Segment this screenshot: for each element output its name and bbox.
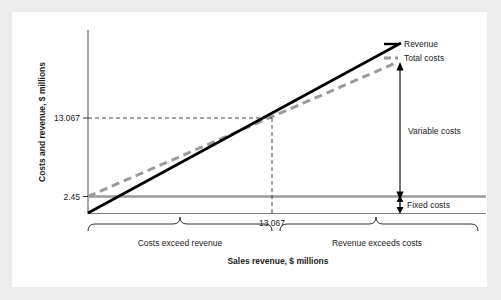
fixed-costs-arrow <box>397 195 404 214</box>
legend-total-costs-label: Total costs <box>404 53 444 63</box>
break-even-chart: 13.067 2.45 13.067 Costs and revenue, $ … <box>12 12 487 287</box>
brace-left-label: Costs exceed revenue <box>138 238 223 248</box>
y-tick-label-high: 13.067 <box>54 113 80 123</box>
y-tick-label-low: 2.45 <box>63 192 80 202</box>
y-axis-title: Costs and revenue, $ millions <box>37 62 47 182</box>
revenue-line <box>88 43 401 213</box>
legend-revenue-label: Revenue <box>404 39 438 49</box>
x-tick-label-breakeven: 13.067 <box>259 218 285 228</box>
brace-right-label: Revenue exceeds costs <box>332 238 422 248</box>
x-axis-title: Sales revenue, $ millions <box>227 256 328 266</box>
brace-right <box>280 217 478 231</box>
fixed-costs-label: Fixed costs <box>407 200 450 210</box>
page-root: 13.067 2.45 13.067 Costs and revenue, $ … <box>0 0 501 300</box>
chart-card: 13.067 2.45 13.067 Costs and revenue, $ … <box>12 12 487 287</box>
brace-left <box>88 217 272 231</box>
variable-costs-arrow <box>396 62 403 200</box>
variable-costs-label: Variable costs <box>408 126 461 136</box>
